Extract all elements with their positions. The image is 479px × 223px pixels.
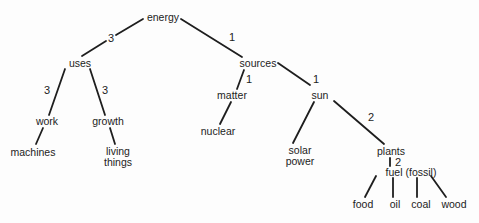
edge-fuel-food <box>365 176 376 197</box>
node-solar-power-line2: power <box>286 156 315 167</box>
edge-layer <box>0 0 479 223</box>
node-uses: uses <box>69 58 91 69</box>
edge-sources-matter <box>237 70 244 89</box>
weight-energy-uses: 3 <box>108 32 114 44</box>
weight-uses-work: 3 <box>44 84 50 96</box>
node-matter: matter <box>217 90 247 101</box>
edge-growth-living <box>110 128 115 144</box>
edge-sun-solar <box>293 102 314 143</box>
weight-uses-growth: 3 <box>102 84 108 96</box>
edge-uses-work <box>49 69 65 115</box>
node-coal: coal <box>411 199 430 210</box>
node-solar-power: solar power <box>286 145 315 167</box>
node-fuel-fossil: fuel (fossil) <box>386 167 437 178</box>
node-growth: growth <box>92 116 124 127</box>
node-plants: plants <box>377 146 405 157</box>
weight-sources-sun: 1 <box>313 73 319 85</box>
edge-fuel-wood <box>431 176 446 197</box>
node-wood: wood <box>441 199 466 210</box>
weight-plants-fuel: 2 <box>395 156 401 168</box>
edge-sources-sun <box>278 63 310 85</box>
node-oil: oil <box>390 199 401 210</box>
edge-work-machines <box>36 128 43 144</box>
node-food: food <box>353 199 373 210</box>
weight-sources-matter: 1 <box>246 73 252 85</box>
node-energy: energy <box>147 12 179 23</box>
concept-tree-diagram: energy uses sources work growth machines… <box>0 0 479 223</box>
node-machines: machines <box>11 147 56 158</box>
edge-sun-plants <box>334 101 384 144</box>
weight-sun-plants: 2 <box>368 111 374 123</box>
node-sun: sun <box>312 90 329 101</box>
node-work: work <box>36 116 58 127</box>
weight-energy-sources: 1 <box>229 31 235 43</box>
node-living-things: living things <box>104 146 132 168</box>
edge-energy-uses <box>116 19 143 35</box>
edge-energy-uses-lower <box>82 41 106 56</box>
node-sources: sources <box>240 58 277 69</box>
edge-matter-nuclear <box>220 102 231 124</box>
node-living-things-line2: things <box>104 157 132 168</box>
node-nuclear: nuclear <box>201 126 235 137</box>
